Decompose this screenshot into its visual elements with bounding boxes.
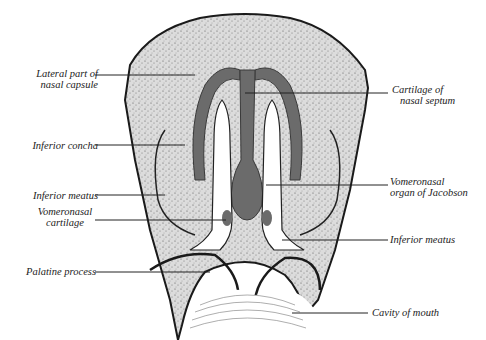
label-line: cartilage [30, 217, 100, 228]
vomeronasal-cartilage-left [222, 210, 232, 226]
label-cavity-of-mouth: Cavity of mouth [372, 307, 439, 318]
label-inferior-concha: Inferior concha [18, 140, 98, 151]
label-line: Vomeronasal [30, 206, 100, 217]
label-line: Lateral part of [18, 68, 98, 79]
label-line: Cartilage of [392, 84, 455, 95]
label-inferior-meatus-right: Inferior meatus [390, 234, 455, 245]
label-cartilage-nasal-septum: Cartilage of nasal septum [392, 84, 455, 106]
label-vomeronasal-organ: Vomeronasal organ of Jacobson [390, 176, 468, 198]
anatomical-illustration [0, 0, 486, 340]
label-lateral-part-nasal-capsule: Lateral part of nasal capsule [18, 68, 98, 90]
label-line: nasal capsule [18, 79, 98, 90]
vomeronasal-cartilage-right [262, 210, 272, 226]
label-vomeronasal-cartilage: Vomeronasal cartilage [30, 206, 100, 228]
label-line: nasal septum [392, 95, 455, 106]
label-line: organ of Jacobson [390, 187, 468, 198]
label-inferior-meatus-left: Inferior meatus [18, 190, 98, 201]
label-palatine-process: Palatine process [8, 266, 96, 277]
label-line: Vomeronasal [390, 176, 468, 187]
